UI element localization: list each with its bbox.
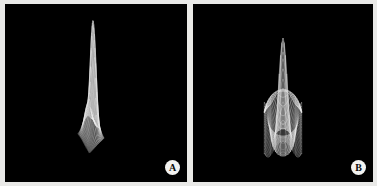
- panel-label-a: A: [165, 160, 180, 175]
- panel-label-b: B: [351, 160, 366, 175]
- wireframe-surface-b: [193, 4, 373, 182]
- surface-plot-panel-a: A: [5, 4, 187, 182]
- mesh-group: [264, 38, 301, 157]
- wireframe-surface-a: [5, 4, 187, 182]
- surface-plot-panel-b: B: [193, 4, 373, 182]
- figure-container: A B: [0, 0, 377, 186]
- mesh-group: [78, 21, 104, 154]
